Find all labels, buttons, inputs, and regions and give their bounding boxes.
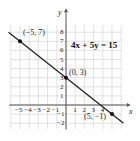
x-tick-label: −2 — [43, 107, 50, 114]
x-tick-label: −4 — [24, 107, 31, 114]
x-tick-label: −5 — [15, 107, 22, 114]
x-axis-label: x — [129, 108, 133, 116]
x-tick-label: 3 — [92, 107, 96, 114]
y-tick-label: 5 — [60, 57, 64, 64]
point-label-neg5-7: (−5, 7) — [23, 29, 45, 37]
y-tick-label: 7 — [60, 38, 64, 45]
y-tick-label: 2 — [60, 84, 64, 91]
x-tick-label: 1 — [73, 107, 77, 114]
equation-label: 4x + 5y = 15 — [71, 40, 117, 50]
x-tick-label: 4 — [101, 107, 105, 114]
y-tick-label: −1 — [57, 111, 64, 118]
y-tick-label: 8 — [60, 29, 64, 36]
y-tick-label: −2 — [57, 120, 64, 127]
y-tick-label: 1 — [60, 93, 64, 100]
y-tick-label: 4 — [60, 66, 64, 73]
x-tick-label: 2 — [82, 107, 86, 114]
y-axis-label: y — [58, 9, 62, 17]
point-label-0-3: (0, 3) — [69, 69, 86, 77]
y-tick-label: 3 — [60, 75, 64, 82]
point-label-5-neg1: (5, −1) — [84, 113, 106, 121]
x-tick-label: −3 — [33, 107, 40, 114]
y-tick-label: 6 — [60, 47, 64, 54]
